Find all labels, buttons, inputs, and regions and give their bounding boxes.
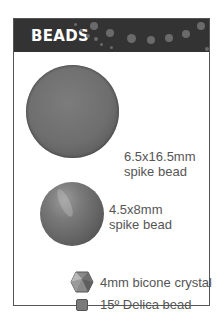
- decor-dot: [197, 22, 205, 30]
- decor-dot: [106, 29, 114, 37]
- decor-dot: [86, 34, 90, 38]
- medium-spike-bead-label: 4.5x8mm spike bead: [109, 202, 172, 232]
- decor-dot: [90, 22, 98, 30]
- decor-dot: [94, 37, 98, 41]
- bicone-crystal-label: 4mm bicone crystal: [100, 275, 212, 290]
- decor-dot: [205, 47, 209, 51]
- large-spike-bead-icon: [26, 65, 119, 158]
- decor-dot: [110, 46, 113, 49]
- medium-spike-bead-size: 4.5x8mm: [109, 202, 172, 217]
- beads-legend-card: BEADS 6.5x16.5mm spike bead 4.5x8mm spik…: [13, 18, 210, 306]
- legend-header: BEADS: [14, 19, 209, 52]
- medium-spike-bead-icon: [40, 182, 104, 246]
- decor-dot: [80, 29, 83, 32]
- delica-bead-icon: [76, 299, 88, 311]
- decor-dot: [147, 36, 155, 44]
- decor-dot: [127, 34, 136, 43]
- decor-dot: [100, 43, 103, 46]
- decor-dot: [182, 30, 190, 38]
- large-spike-bead-type: spike bead: [124, 164, 196, 179]
- medium-spike-bead-type: spike bead: [109, 217, 172, 232]
- decor-dot: [74, 23, 77, 26]
- decor-dot: [165, 34, 173, 42]
- bicone-crystal-icon: [70, 271, 94, 293]
- delica-bead-label: 15º Delica bead: [100, 297, 191, 312]
- large-spike-bead-size: 6.5x16.5mm: [124, 149, 196, 164]
- large-spike-bead-label: 6.5x16.5mm spike bead: [124, 149, 196, 179]
